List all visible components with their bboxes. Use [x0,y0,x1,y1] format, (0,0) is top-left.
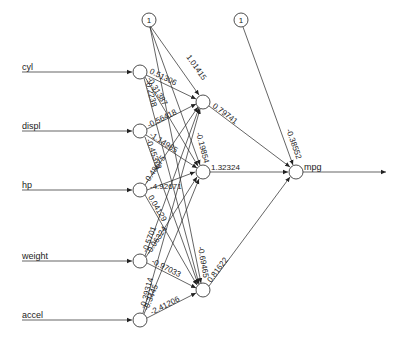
weight-h2-out: 1.32324 [211,163,240,172]
weight-labels: 0.51306 -0.31387 -0.2238 -0.56418 -1.149… [138,53,303,317]
weight-hp-h2: -4.92671 [150,182,182,191]
input-label-hp: hp [22,180,32,190]
weight-h1-out: 0.79741 [211,101,240,126]
input-label-displ: displ [22,121,41,131]
weight-hp-h3: 0.04129 [146,194,169,224]
weight-bias2-out: -0.38552 [284,128,303,161]
input-labels: cyl displ hp weight accel [21,62,49,320]
input-label-weight: weight [21,251,49,261]
input-node-cyl [133,65,147,79]
input-node-hp [133,183,147,197]
input-node-accel [133,313,147,327]
neural-network-diagram: cyl displ hp weight accel 0.51306 -0.313… [0,0,407,344]
hidden-node-3 [196,283,210,297]
weight-bias1-h1: 1.01415 [184,53,208,82]
weight-displ-h1: -0.56418 [146,107,179,130]
hidden-node-2 [196,165,210,179]
input-node-weight [133,254,147,268]
weight-weight-h3: -0.97033 [150,257,183,280]
bias-node-1-label: 1 [147,16,152,25]
bias-node-2-label: 1 [239,16,244,25]
input-label-cyl: cyl [22,62,33,72]
input-feed-lines [22,72,132,320]
hidden-output-edges [209,27,293,286]
weight-bias1-h2: -0.19854 [194,131,211,164]
input-node-displ [133,124,147,138]
bias-nodes: 1 1 [142,13,248,27]
output-label-mpg: mpg [304,162,322,172]
hidden-node-1 [196,95,210,109]
input-label-accel: accel [22,310,43,320]
output-node-mpg [289,165,303,179]
